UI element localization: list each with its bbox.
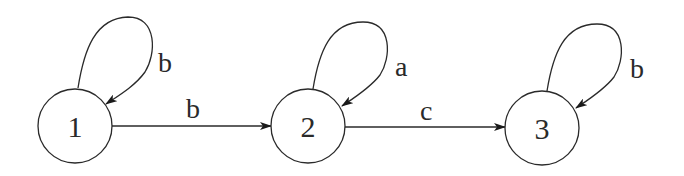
edge-1-1-loop: b: [78, 17, 172, 104]
state-node-1: 1: [38, 89, 112, 163]
state-label-1: 1: [68, 110, 83, 143]
edge-2-2-loop: a: [313, 22, 408, 106]
edge-label-1-2: b: [186, 93, 200, 124]
edge-label-2-3: c: [420, 95, 432, 126]
state-label-2: 2: [301, 110, 316, 143]
state-node-2: 2: [271, 89, 345, 163]
edge-label-1-1: b: [158, 47, 172, 78]
edge-label-2-2: a: [395, 51, 408, 82]
edge-1-2: b: [112, 93, 271, 126]
edge-3-3-loop: b: [547, 24, 644, 108]
loop-arrow-1: [78, 17, 152, 104]
edge-label-3-3: b: [630, 53, 644, 84]
state-label-3: 3: [535, 112, 550, 145]
state-node-3: 3: [505, 91, 579, 165]
edge-2-3: c: [345, 95, 505, 127]
state-diagram: b b a c b 1 2 3: [0, 0, 684, 176]
